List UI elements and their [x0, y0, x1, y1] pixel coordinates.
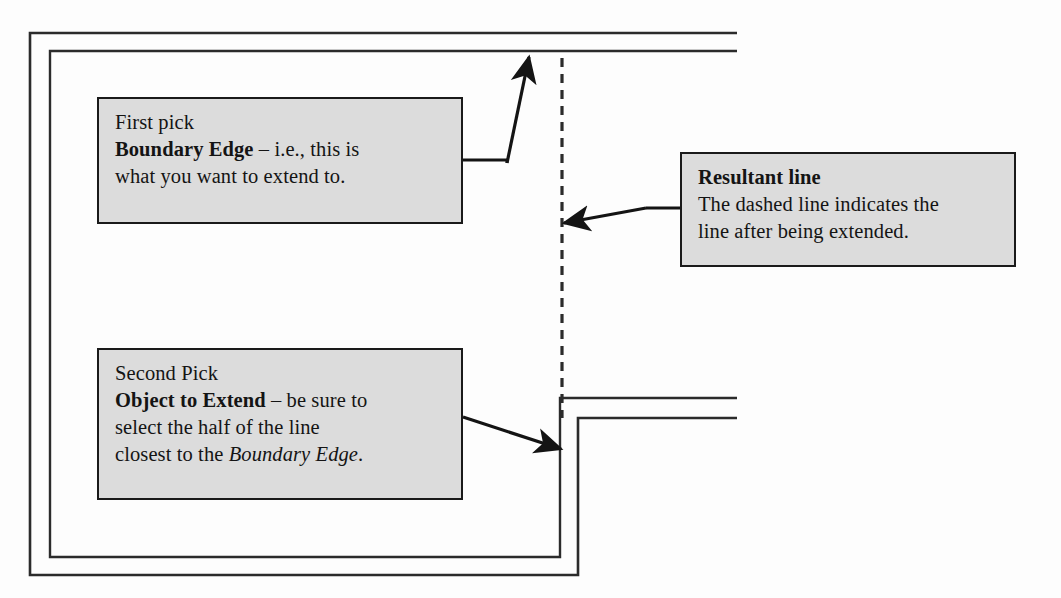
second-pick-line-2: Object to Extend – be sure to: [115, 387, 447, 414]
first-pick-leader: [463, 160, 507, 163]
second-pick-callout: Second Pick Object to Extend – be sure t…: [97, 348, 463, 500]
second-pick-term: Object to Extend: [115, 389, 266, 411]
resultant-line-callout: Resultant line The dashed line indicates…: [680, 152, 1016, 267]
diagram-canvas: First pick Boundary Edge – i.e., this is…: [0, 0, 1061, 598]
second-pick-line-1: Second Pick: [115, 360, 447, 387]
second-pick-line-4-post: .: [358, 443, 363, 465]
second-pick-line-4-pre: closest to the: [115, 443, 229, 465]
first-pick-line-2: Boundary Edge – i.e., this is: [115, 136, 447, 163]
first-pick-term: Boundary Edge: [115, 138, 254, 160]
second-pick-line-3: select the half of the line: [115, 414, 447, 441]
first-pick-callout: First pick Boundary Edge – i.e., this is…: [97, 97, 463, 224]
line-work-layer: [0, 0, 1061, 598]
resultant-line-2: The dashed line indicates the: [698, 191, 1000, 218]
resultant-leader-arrow: [564, 208, 646, 223]
second-pick-italic-term: Boundary Edge: [229, 443, 358, 465]
second-pick-leader-arrow: [463, 417, 561, 449]
first-pick-leader-arrow: [507, 57, 529, 163]
first-pick-line-3: what you want to extend to.: [115, 163, 447, 190]
second-pick-line-4: closest to the Boundary Edge.: [115, 441, 447, 468]
resultant-line-3: line after being extended.: [698, 218, 1000, 245]
second-pick-line-2-rest: – be sure to: [266, 389, 368, 411]
first-pick-line-1: First pick: [115, 109, 447, 136]
resultant-heading: Resultant line: [698, 164, 1000, 191]
first-pick-line-2-rest: – i.e., this is: [254, 138, 360, 160]
